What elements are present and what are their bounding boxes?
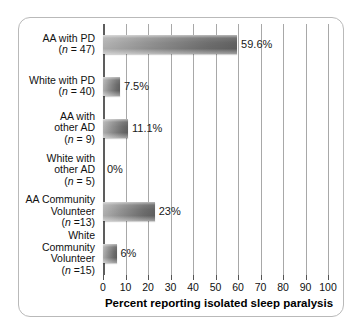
gridline-70 <box>261 24 262 275</box>
x-tick-70 <box>261 275 262 280</box>
plot-area <box>103 24 328 275</box>
gridline-100 <box>328 24 329 275</box>
x-tick-30 <box>171 275 172 280</box>
bar[interactable] <box>103 202 155 221</box>
x-tick-90 <box>306 275 307 280</box>
x-tick-0 <box>103 275 104 280</box>
gridline-40 <box>193 24 194 275</box>
bar-value-label: 11.1% <box>132 119 162 138</box>
category-label: White with PD(n = 40) <box>0 75 95 98</box>
bar-value-label: 7.5% <box>124 77 149 96</box>
gridline-30 <box>171 24 172 275</box>
gridline-60 <box>238 24 239 275</box>
category-n-label: (n = 47) <box>0 44 95 56</box>
category-label: White withother AD(n = 5) <box>0 153 95 188</box>
category-label: AA CommunityVolunteer(n =13) <box>0 194 95 229</box>
gridline-80 <box>283 24 284 275</box>
x-tick-label-100: 100 <box>315 281 341 293</box>
caption-cutoff-sliver <box>26 325 326 331</box>
x-tick-40 <box>193 275 194 280</box>
bar-value-label: 23% <box>159 202 181 221</box>
category-n-label: (n =13) <box>0 217 95 229</box>
bar[interactable] <box>103 35 237 54</box>
bar-value-label: 6% <box>121 244 137 263</box>
x-tick-100 <box>328 275 329 280</box>
x-tick-50 <box>216 275 217 280</box>
bar[interactable] <box>103 119 128 138</box>
bar-value-label: 0% <box>107 160 123 179</box>
category-n-label: (n =15) <box>0 265 95 277</box>
bar-chart: AA with PD(n = 47)White with PD(n = 40)A… <box>0 0 357 332</box>
bar-value-label: 59.6% <box>241 35 272 54</box>
category-label: AA with PD(n = 47) <box>0 33 95 56</box>
bar[interactable] <box>103 244 117 263</box>
category-n-label: (n = 9) <box>0 134 95 146</box>
gridline-90 <box>306 24 307 275</box>
category-label-line: other AD <box>0 164 95 176</box>
x-tick-60 <box>238 275 239 280</box>
gridline-20 <box>148 24 149 275</box>
value-axis-line <box>103 24 105 275</box>
x-tick-80 <box>283 275 284 280</box>
bar[interactable] <box>103 77 120 96</box>
category-n-label: (n = 40) <box>0 86 95 98</box>
category-n-label: (n = 5) <box>0 176 95 188</box>
x-tick-20 <box>148 275 149 280</box>
category-label: WhiteCommunityVolunteer(n =15) <box>0 230 95 276</box>
gridline-10 <box>126 24 127 275</box>
x-tick-10 <box>126 275 127 280</box>
gridline-50 <box>216 24 217 275</box>
x-axis-title: Percent reporting isolated sleep paralys… <box>103 297 335 309</box>
category-label: AA withother AD(n = 9) <box>0 111 95 146</box>
